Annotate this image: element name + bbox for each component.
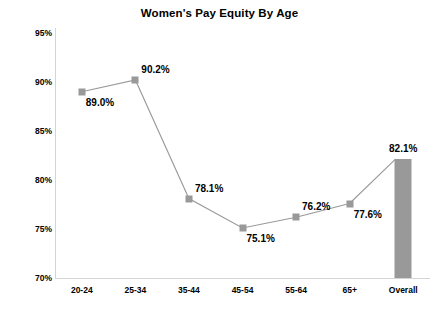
data-point-label: 77.6%: [354, 209, 382, 220]
y-tick-label: 70%: [18, 273, 52, 283]
chart-title: Women's Pay Equity By Age: [0, 7, 439, 19]
x-tick-label-20-24: 20-24: [71, 285, 93, 295]
data-point-label: 90.2%: [141, 64, 169, 75]
data-point-marker: [346, 200, 353, 207]
data-point-label: 89.0%: [86, 97, 114, 108]
data-point-marker: [239, 225, 246, 232]
x-tick-label-overall: Overall: [389, 285, 418, 295]
y-tick-label: 95%: [18, 28, 52, 38]
y-axis: 95%90%85%80%75%70%: [18, 0, 52, 311]
chart-container: Women's Pay Equity By Age 95%90%85%80%75…: [0, 0, 439, 311]
data-point-marker: [293, 214, 300, 221]
y-axis-line: [55, 28, 56, 279]
y-tick-label: 90%: [18, 77, 52, 87]
x-tick-label-35-44: 35-44: [178, 285, 200, 295]
data-point-marker: [78, 88, 85, 95]
y-tick-label: 75%: [18, 224, 52, 234]
x-tick-label-55-64: 55-64: [285, 285, 307, 295]
series-line: [0, 0, 439, 311]
data-point-label: 75.1%: [247, 233, 275, 244]
x-axis-line: [55, 278, 430, 279]
x-tick-label-65-: 65+: [342, 285, 356, 295]
data-point-marker: [132, 77, 139, 84]
data-point-label: 78.1%: [195, 183, 223, 194]
x-tick-label-25-34: 25-34: [124, 285, 146, 295]
data-point-marker: [185, 195, 192, 202]
overall-bar: [395, 159, 412, 278]
x-tick-label-45-54: 45-54: [232, 285, 254, 295]
overall-bar-label: 82.1%: [389, 143, 417, 154]
y-tick-label: 85%: [18, 126, 52, 136]
data-point-label: 76.2%: [302, 201, 330, 212]
y-tick-label: 80%: [18, 175, 52, 185]
